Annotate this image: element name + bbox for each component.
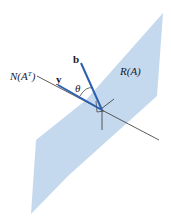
vector-y-label: y — [56, 73, 62, 85]
range-plane — [31, 13, 163, 214]
angle-label: θ — [75, 82, 81, 94]
range-label: R(A) — [119, 65, 141, 78]
vector-b-label: b — [73, 53, 79, 65]
diagram: N(AT) R(A) b y θ — [0, 0, 171, 224]
null-space-label: N(AT) — [9, 70, 36, 83]
